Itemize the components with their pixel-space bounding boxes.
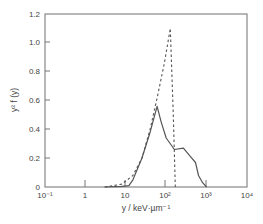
y-axis bbox=[45, 42, 50, 158]
y-tick-label: 0.6 bbox=[29, 96, 41, 105]
y-axis-title: y² f (y) bbox=[9, 88, 19, 112]
y-tick-label: 1.2 bbox=[29, 10, 41, 19]
x-tick-label: 10⁻¹ bbox=[37, 191, 53, 200]
series-layer bbox=[105, 28, 207, 187]
x-tick-label: 10³ bbox=[200, 191, 212, 200]
x-tick-label: 10⁴ bbox=[241, 191, 254, 200]
x-tick-label: 10 bbox=[121, 191, 130, 200]
y-tick-label: 0.4 bbox=[29, 125, 41, 134]
x-tick-label: 1 bbox=[83, 191, 88, 200]
x-tick-label: 10² bbox=[159, 191, 171, 200]
chart: 0 0.2 0.4 0.6 0.8 1.0 1.2 10⁻¹ 1 10 10² … bbox=[0, 0, 263, 224]
y-tick-label: 0.2 bbox=[29, 154, 41, 163]
x-axis bbox=[85, 180, 206, 187]
x-axis-title: y / keV·µm⁻¹ bbox=[122, 203, 171, 213]
plot-frame bbox=[45, 14, 247, 187]
y-tick-label: 1.0 bbox=[29, 38, 41, 47]
y-tick-label: 0.8 bbox=[29, 67, 41, 76]
series-solid-line bbox=[105, 106, 207, 187]
